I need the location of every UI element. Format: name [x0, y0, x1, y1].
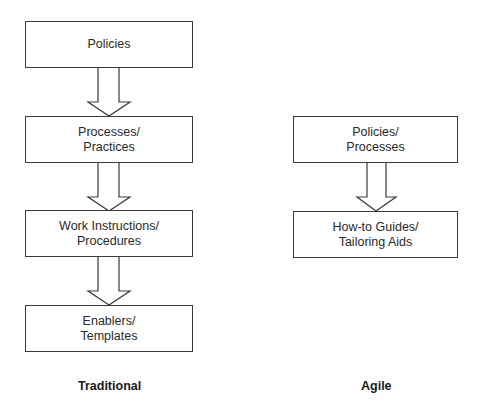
traditional-box-policies: Policies [25, 21, 193, 68]
down-arrow-icon [86, 67, 132, 118]
box-text-line1: Work Instructions/ [59, 219, 159, 234]
traditional-box-processes: Processes/ Practices [25, 116, 193, 163]
box-text-line2: Templates [81, 329, 138, 344]
down-arrow-icon [354, 162, 400, 213]
box-text: Policies [87, 37, 130, 52]
box-text-line2: Processes [346, 140, 404, 155]
traditional-box-work-instructions: Work Instructions/ Procedures [25, 210, 193, 257]
box-text-line1: Policies/ [352, 125, 399, 140]
box-text-line1: Enablers/ [83, 314, 136, 329]
box-text-line2: Tailoring Aids [339, 235, 413, 250]
agile-box-how-to-guides: How-to Guides/ Tailoring Aids [293, 211, 458, 258]
box-text-line2: Practices [83, 140, 134, 155]
down-arrow-icon [86, 162, 132, 213]
box-text-line1: Processes/ [78, 125, 140, 140]
box-text-line2: Procedures [77, 234, 141, 249]
down-arrow-icon [86, 256, 132, 307]
agile-box-policies-processes: Policies/ Processes [293, 116, 458, 163]
traditional-box-enablers: Enablers/ Templates [25, 305, 193, 352]
traditional-caption: Traditional [78, 379, 141, 393]
box-text-line1: How-to Guides/ [332, 220, 418, 235]
agile-caption: Agile [361, 379, 392, 393]
